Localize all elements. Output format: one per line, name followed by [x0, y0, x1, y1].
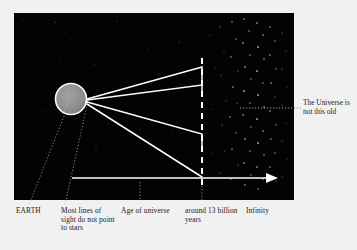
- caption-earth: EARTH: [16, 207, 41, 216]
- space-panel: [14, 13, 294, 200]
- sight-line-2: [87, 85, 202, 100]
- sight-line-3: [87, 102, 202, 146]
- annotation-universe-not-this-old: The Universe is not this old: [303, 99, 357, 117]
- figure-container: EARTH Most lines of sight do not point t…: [0, 0, 357, 250]
- dense-star-cluster: [210, 18, 288, 189]
- caption-most-lines-of-sight: Most lines of sight do not point to star…: [61, 207, 117, 233]
- sight-line-4: [87, 104, 202, 177]
- caption-infinity: Infinity: [246, 207, 269, 216]
- caption-age-of-universe: Age of universe: [121, 207, 181, 216]
- caption-around-13-billion-years: around 13 billion years: [185, 207, 239, 224]
- earth-body: [56, 84, 87, 115]
- starfield-svg: [14, 13, 294, 200]
- caption-row: EARTH Most lines of sight do not point t…: [0, 203, 357, 250]
- sight-line-1: [87, 67, 202, 99]
- sight-lines-group: [87, 67, 202, 177]
- leader-sight-line: [66, 101, 88, 200]
- time-axis: [72, 173, 278, 183]
- sparse-stars: [23, 20, 207, 193]
- leader-earth-line: [31, 101, 70, 200]
